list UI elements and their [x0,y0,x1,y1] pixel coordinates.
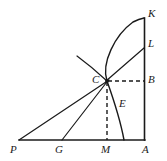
geometry-figure: K L B C E P G M A [0,0,167,161]
line-segment-pc [19,80,109,140]
point-label-l: L [148,38,154,49]
point-label-p: P [10,144,17,155]
point-label-m: M [101,144,110,155]
point-label-e: E [119,98,126,109]
point-label-a: A [142,144,149,155]
point-label-g: G [55,144,63,155]
line-segment-gc [62,81,108,141]
geometry-canvas [0,0,167,161]
line-segment-cl [106,48,144,81]
point-label-b: B [148,74,155,85]
point-marker-c [105,79,109,83]
curve-eck [106,18,144,140]
point-label-c: C [92,74,99,85]
point-label-k: K [148,8,155,19]
